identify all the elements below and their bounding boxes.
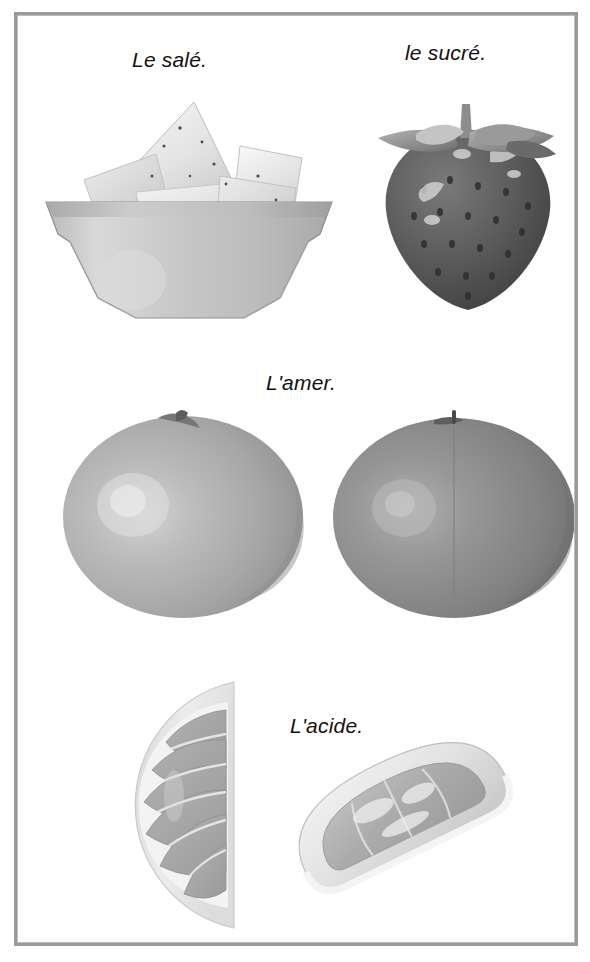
- strawberry-photo: [358, 94, 578, 324]
- worksheet-page: Le salé. le sucré.: [0, 0, 590, 962]
- caption-salty: Le salé.: [132, 48, 207, 72]
- caption-bitter: L'amer.: [266, 371, 336, 395]
- lemon-half-slice-photo: [108, 674, 288, 936]
- grapefruit-left-photo: [58, 401, 308, 626]
- bowl-of-tortilla-chips-photo: [44, 84, 334, 324]
- page-border-frame: Le salé. le sucré.: [14, 12, 578, 946]
- caption-sweet: le sucré.: [405, 41, 486, 65]
- lemon-wedge-photo: [274, 728, 536, 918]
- grapefruit-right-photo: [330, 404, 580, 626]
